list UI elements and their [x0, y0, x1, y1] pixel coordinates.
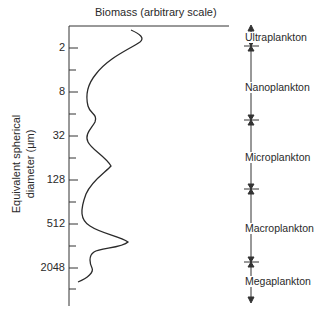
category-nanoplankton: Nanoplankton: [245, 82, 310, 93]
y-tick-label-128: 128: [15, 174, 65, 185]
category-microplankton: Microplankton: [245, 152, 310, 163]
biomass-curve: [78, 30, 142, 282]
y-tick-label-2048: 2048: [15, 262, 65, 273]
y-tick-label-8: 8: [15, 86, 65, 97]
y-tick-label-32: 32: [15, 130, 65, 141]
category-macroplankton: Macroplankton: [245, 223, 314, 234]
category-megaplankton: Megaplankton: [245, 276, 311, 287]
y-tick-label-512: 512: [15, 218, 65, 229]
y-axis-ticks: [69, 48, 78, 289]
y-tick-label-2: 2: [15, 42, 65, 53]
category-ultraplankton: Ultraplankton: [245, 32, 307, 43]
category-scale: [244, 25, 259, 303]
